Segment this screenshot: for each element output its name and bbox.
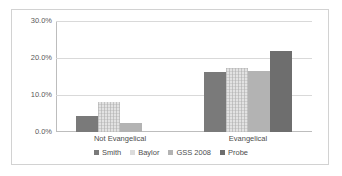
chart-legend: SmithBaylorGSS 2008Probe (12, 148, 330, 157)
x-axis-labels: Not EvangelicalEvangelical (56, 134, 312, 148)
bar (204, 72, 226, 132)
plot-area (56, 21, 312, 132)
bar (76, 116, 98, 132)
legend-swatch-icon (220, 150, 225, 155)
y-tick-label: 10.0% (12, 91, 52, 99)
legend-item[interactable]: GSS 2008 (168, 148, 211, 157)
bar (226, 68, 248, 132)
legend-label: GSS 2008 (176, 148, 211, 157)
legend-item[interactable]: Baylor (130, 148, 159, 157)
bar (270, 51, 292, 132)
legend-label: Smith (102, 148, 121, 157)
legend-swatch-icon (130, 150, 135, 155)
legend-swatch-icon (168, 150, 173, 155)
x-tick-label: Not Evangelical (56, 134, 184, 144)
legend-label: Baylor (138, 148, 159, 157)
bar (248, 71, 270, 132)
legend-swatch-icon (94, 150, 99, 155)
y-tick-label: 0.0% (12, 128, 52, 136)
bar-group (56, 21, 184, 132)
legend-item[interactable]: Probe (220, 148, 248, 157)
legend-label: Probe (228, 148, 248, 157)
legend-item[interactable]: Smith (94, 148, 121, 157)
x-tick-label: Evangelical (184, 134, 312, 144)
y-tick-label: 30.0% (12, 17, 52, 25)
chart-figure: 0.0%10.0%20.0%30.0% Not EvangelicalEvang… (11, 9, 329, 165)
y-axis-labels: 0.0%10.0%20.0%30.0% (12, 21, 52, 132)
bar (120, 123, 142, 132)
y-tick-label: 20.0% (12, 54, 52, 62)
bar-group (184, 21, 312, 132)
bar (98, 102, 120, 132)
